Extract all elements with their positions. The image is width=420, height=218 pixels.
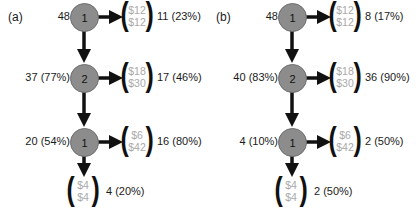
node-left-label: 48 bbox=[0, 10, 70, 22]
offer-bracket: ( $18$30 ) bbox=[330, 61, 360, 95]
right-paren-icon: ) bbox=[145, 0, 153, 34]
node-left-label: 20 (54%) bbox=[0, 135, 70, 147]
right-paren-icon: ) bbox=[353, 119, 361, 159]
panel-a: (a) 48 1 ( $12$12 ) 11 (23%) 37 (77%) 2 … bbox=[0, 0, 210, 218]
terminal-right-label: 4 (20%) bbox=[106, 185, 145, 197]
node-left-label: 40 (83%) bbox=[208, 71, 278, 83]
offer-bracket: ( $6$42 ) bbox=[122, 125, 152, 159]
panel-b: (b) 48 1 ( $12$12 ) 8 (17%) 40 (83%) 2 (… bbox=[208, 0, 418, 218]
terminal-right-label: 2 (50%) bbox=[314, 185, 353, 197]
terminal-offer-bracket: ( $4$4 ) bbox=[68, 175, 98, 209]
node-left-label: 48 bbox=[208, 10, 278, 22]
node-right-label: 36 (90%) bbox=[365, 71, 410, 83]
node-right-label: 2 (50%) bbox=[365, 135, 404, 147]
node-left-label: 4 (10%) bbox=[208, 135, 278, 147]
arrows bbox=[208, 0, 418, 218]
right-paren-icon: ) bbox=[145, 55, 153, 95]
node-circle: 1 bbox=[70, 3, 99, 32]
right-paren-icon: ) bbox=[353, 0, 361, 34]
terminal-offer-bracket: ( $4$4 ) bbox=[276, 175, 306, 209]
node-right-label: 17 (46%) bbox=[157, 71, 202, 83]
node-circle: 1 bbox=[278, 3, 307, 32]
node-right-label: 16 (80%) bbox=[157, 135, 202, 147]
right-paren-icon: ) bbox=[145, 119, 153, 159]
node-right-label: 8 (17%) bbox=[365, 10, 404, 22]
node-circle: 1 bbox=[278, 128, 307, 157]
node-circle: 2 bbox=[278, 64, 307, 93]
node-right-label: 11 (23%) bbox=[157, 10, 201, 22]
node-circle: 1 bbox=[70, 128, 99, 157]
arrows bbox=[0, 0, 210, 218]
node-left-label: 37 (77%) bbox=[0, 71, 70, 83]
offer-bracket: ( $12$12 ) bbox=[122, 0, 152, 34]
right-paren-icon: ) bbox=[299, 169, 307, 209]
offer-bracket: ( $12$12 ) bbox=[330, 0, 360, 34]
offer-bracket: ( $18$30 ) bbox=[122, 61, 152, 95]
right-paren-icon: ) bbox=[91, 169, 99, 209]
node-circle: 2 bbox=[70, 64, 99, 93]
offer-bracket: ( $6$42 ) bbox=[330, 125, 360, 159]
right-paren-icon: ) bbox=[353, 55, 361, 95]
